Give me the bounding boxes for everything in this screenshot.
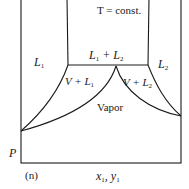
condition-label: T = const. bbox=[97, 5, 141, 16]
region-label-vapor: Vapor bbox=[97, 102, 123, 113]
bubble-curve-left bbox=[21, 65, 68, 131]
region-label-l1-l2: L1 + L2 bbox=[89, 49, 123, 63]
panel-label: (n) bbox=[25, 170, 38, 181]
l1-l2-boundary-right bbox=[148, 0, 149, 65]
l1-l2-boundary-left bbox=[67, 0, 68, 65]
bubble-curve-right bbox=[148, 65, 181, 116]
dew-curve-right bbox=[116, 66, 181, 116]
y-axis-label: P bbox=[9, 147, 16, 159]
region-label-l1: L1 bbox=[34, 56, 44, 70]
region-label-v-l2: V + L2 bbox=[123, 77, 152, 90]
region-label-v-l1: V + L1 bbox=[65, 76, 94, 89]
x-axis-label: x1, y1 bbox=[96, 170, 120, 184]
region-label-l2: L2 bbox=[158, 58, 168, 72]
plot-frame bbox=[21, 0, 181, 163]
phase-diagram bbox=[0, 0, 189, 189]
